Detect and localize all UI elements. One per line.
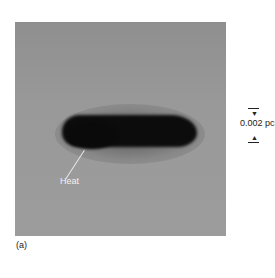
dark-object-lobe (67, 122, 117, 149)
panel-label: (a) (16, 240, 27, 250)
heat-label: Heat (60, 176, 79, 186)
arrow-down-icon: ▼ (251, 110, 258, 117)
scale-bar-label: 0.002 pc (240, 118, 275, 128)
scale-bar-top (248, 108, 259, 109)
arrow-up-icon: ▲ (251, 134, 258, 141)
astronomical-image (15, 22, 226, 236)
scale-bar-bottom (248, 142, 259, 143)
